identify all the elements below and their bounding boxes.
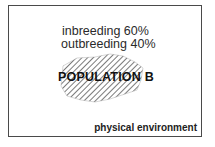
population-label: POPULATION B — [58, 70, 154, 84]
inbreeding-label: inbreeding 60% — [62, 24, 149, 38]
environment-label: physical environment — [94, 122, 197, 133]
outbreeding-label: outbreeding 40% — [61, 37, 156, 51]
